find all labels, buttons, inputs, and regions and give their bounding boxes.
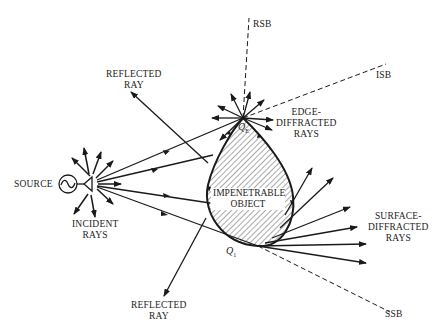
incident-rays bbox=[72, 148, 121, 217]
label-line: INCIDENT bbox=[72, 219, 118, 230]
label-line: EDGE- bbox=[276, 107, 337, 118]
label-incident-rays: INCIDENT RAYS bbox=[72, 219, 118, 241]
label-line: REFLECTED bbox=[106, 69, 162, 80]
label-surface-diffracted: SURFACE- DIFFRACTED RAYS bbox=[368, 211, 429, 244]
label-q-edge: QE bbox=[238, 121, 249, 134]
label-line: DIFFRACTED bbox=[368, 222, 429, 233]
ray-midpoint-arrows bbox=[151, 150, 170, 216]
source-icon bbox=[59, 175, 92, 193]
label-line: IMPENETRABLE bbox=[213, 188, 283, 199]
label-line: DIFFRACTED bbox=[276, 118, 337, 129]
label-source: SOURCE bbox=[14, 179, 53, 190]
rsb-line bbox=[243, 18, 249, 118]
label-line: RAYS bbox=[368, 233, 429, 244]
label-reflected-ray-bottom: REFLECTED RAY bbox=[131, 300, 187, 322]
label-q-one: Q1 bbox=[226, 245, 236, 258]
label-line: RAY bbox=[106, 80, 162, 91]
label-ssb: SSB bbox=[385, 309, 403, 320]
q-subscript: E bbox=[245, 128, 249, 134]
diagram-canvas bbox=[0, 0, 436, 334]
label-line: SURFACE- bbox=[368, 211, 429, 222]
label-isb: ISB bbox=[376, 70, 391, 81]
q-subscript: 1 bbox=[233, 252, 236, 258]
label-line: REFLECTED bbox=[131, 300, 187, 311]
label-edge-diffracted: EDGE- DIFFRACTED RAYS bbox=[276, 107, 337, 140]
label-reflected-ray-top: REFLECTED RAY bbox=[106, 69, 162, 91]
label-line: RAYS bbox=[72, 230, 118, 241]
label-line: RAY bbox=[131, 311, 187, 322]
label-rsb: RSB bbox=[253, 19, 272, 30]
label-line: OBJECT bbox=[213, 199, 283, 210]
label-line: RAYS bbox=[276, 129, 337, 140]
reflected-rays bbox=[131, 92, 208, 296]
label-object: IMPENETRABLE OBJECT bbox=[211, 188, 285, 210]
